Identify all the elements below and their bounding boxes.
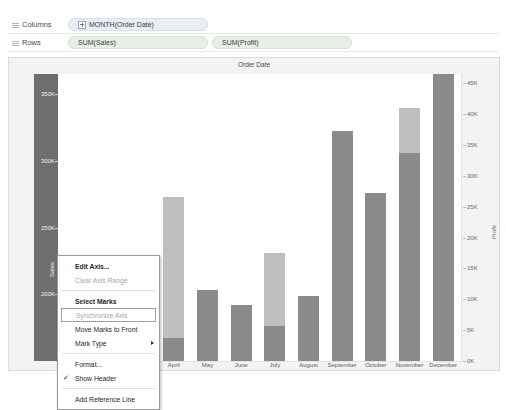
rows-shelf[interactable]: Rows SUM(Sales) SUM(Profit) [8,34,498,52]
bar-segment-sales[interactable] [332,131,353,361]
menu-separator [62,388,155,389]
bar-segment-sales[interactable] [231,305,252,361]
menu-item-select-marks-label: Select Marks [75,298,117,305]
profit-axis-tick: 5K [467,327,474,333]
bar-mark[interactable] [231,74,252,361]
profit-axis-tick: 10K [467,296,478,302]
profit-axis-title: Profit [491,225,497,239]
bar-segment-sales[interactable] [433,74,454,361]
bar-segment-sales[interactable] [163,338,184,361]
bar-segment-profit[interactable] [163,197,184,338]
menu-item-synchronize-axis-label: Synchronize Axis [76,312,128,319]
pill-sum-profit-label: SUM(Profit) [222,39,259,46]
menu-item-add-reference-line-label: Add Reference Line [75,396,135,403]
rows-shelf-label: Rows [8,38,68,47]
axis-context-menu[interactable]: Edit Axis...Clear Axis RangeSelect Marks… [57,255,160,410]
sales-axis-title: Sales [49,262,55,277]
bar-segment-sales[interactable] [264,326,285,361]
menu-item-show-header[interactable]: ✓Show Header [58,371,159,385]
menu-item-move-marks-to-front[interactable]: Move Marks to Front [58,322,159,336]
columns-shelf-label: Columns [8,20,68,29]
menu-item-edit-axis[interactable]: Edit Axis... [58,259,159,273]
pill-sum-sales-label: SUM(Sales) [78,39,116,46]
menu-item-move-marks-to-front-label: Move Marks to Front [75,326,137,333]
sales-axis-tick: 300K [41,158,55,164]
menu-separator [62,290,155,291]
bar-mark[interactable] [365,74,386,361]
month-axis-label[interactable]: June [235,362,248,368]
profit-axis-tick: 30K [467,173,478,179]
sales-axis[interactable]: Sales 350K300K250K200K [34,74,58,361]
columns-label-text: Columns [22,20,52,29]
month-axis-label[interactable]: May [202,362,213,368]
profit-axis-tick: 15K [467,265,478,271]
expand-plus-icon[interactable] [78,21,86,29]
bar-segment-profit[interactable] [399,108,420,153]
bar-mark[interactable] [264,74,285,361]
month-axis-label[interactable]: October [365,362,386,368]
profit-axis-tick: 20K [467,235,478,241]
check-icon: ✓ [63,374,69,382]
menu-item-edit-axis-label: Edit Axis... [75,263,110,270]
profit-axis-tick: 0K [467,358,474,364]
visualization-panel: Order Date Sales 350K300K250K200K Profit… [8,57,500,371]
menu-item-clear-axis-range: Clear Axis Range [58,273,159,287]
shelf-area: Columns MONTH(Order Date) Rows SUM(Sales… [8,16,498,52]
menu-item-mark-type-label: Mark Type [75,340,107,347]
bar-segment-sales[interactable] [365,193,386,361]
menu-item-clear-axis-range-label: Clear Axis Range [75,277,128,284]
bar-mark[interactable] [197,74,218,361]
rows-grip-icon [12,39,19,46]
bar-segment-sales[interactable] [399,153,420,361]
profit-axis-tick: 35K [467,142,478,148]
month-axis-label[interactable]: April [168,362,180,368]
menu-item-mark-type[interactable]: Mark Type [58,336,159,350]
bar-segment-sales[interactable] [298,296,319,361]
columns-grip-icon [12,21,19,28]
profit-axis-tick: 40K [467,111,478,117]
month-axis-label[interactable]: September [327,362,356,368]
bar-mark[interactable] [399,74,420,361]
sales-axis-tick: 350K [41,91,55,97]
bar-mark[interactable] [332,74,353,361]
month-axis-label[interactable]: July [269,362,280,368]
menu-item-add-reference-line[interactable]: Add Reference Line [58,392,159,406]
menu-item-synchronize-axis: Synchronize Axis [61,308,156,322]
month-axis-label[interactable]: November [396,362,424,368]
menu-item-show-header-label: Show Header [75,375,116,382]
bar-mark[interactable] [163,74,184,361]
columns-pill-list: MONTH(Order Date) [68,18,498,31]
profit-axis-tick: 25K [467,204,478,210]
rows-label-text: Rows [22,38,41,47]
profit-axis-tick: 45K [467,80,478,86]
pill-month-order-date[interactable]: MONTH(Order Date) [68,18,208,31]
chevron-right-icon [151,341,154,345]
menu-item-format-label: Format... [75,361,102,368]
pill-sum-profit[interactable]: SUM(Profit) [212,36,352,49]
pill-month-order-date-label: MONTH(Order Date) [89,21,154,28]
bar-mark[interactable] [433,74,454,361]
profit-axis[interactable]: Profit 45K40K35K30K25K20K15K10K5K0K [461,74,501,361]
chart-title: Order Date [9,61,499,68]
menu-separator [62,353,155,354]
sales-axis-tick: 200K [41,291,55,297]
pill-sum-sales[interactable]: SUM(Sales) [68,36,208,49]
sales-axis-tick: 250K [41,225,55,231]
rows-pill-list: SUM(Sales) SUM(Profit) [68,36,498,49]
bar-mark[interactable] [298,74,319,361]
columns-shelf[interactable]: Columns MONTH(Order Date) [8,16,498,34]
bar-segment-sales[interactable] [197,290,218,361]
month-axis-label[interactable]: December [429,362,457,368]
bar-segment-profit[interactable] [264,253,285,326]
menu-item-select-marks[interactable]: Select Marks [58,294,159,308]
menu-item-format[interactable]: Format... [58,357,159,371]
month-axis-label[interactable]: August [299,362,318,368]
